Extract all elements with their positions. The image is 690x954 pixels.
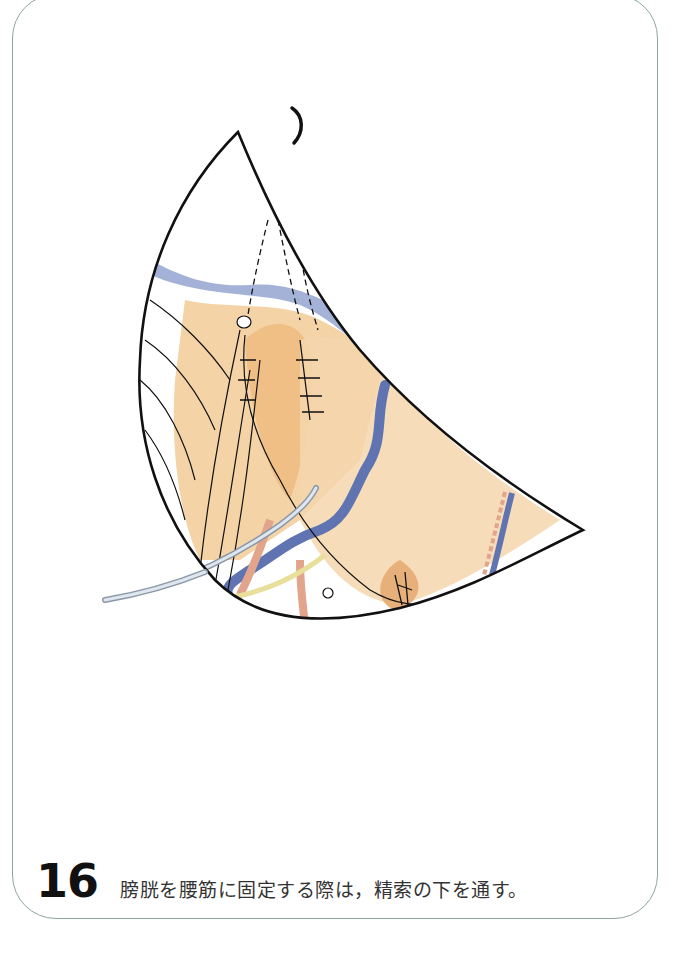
- figure-caption: 16 膀胱を腰筋に固定する際は，精索の下を通す。: [36, 858, 528, 908]
- retractor-tip-mark: [292, 108, 301, 143]
- figure-caption-text: 膀胱を腰筋に固定する際は，精索の下を通す。: [120, 875, 528, 902]
- figure-number: 16: [36, 858, 98, 904]
- surgical-illustration: [0, 0, 690, 954]
